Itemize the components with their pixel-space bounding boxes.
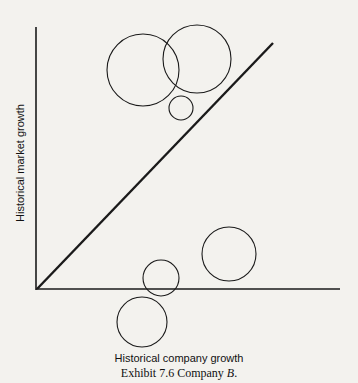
bubble-3 (169, 96, 193, 120)
figure-caption: Exhibit 7.6 Company B. (0, 366, 358, 381)
x-axis-label: Historical company growth (0, 352, 358, 364)
bubble-4 (202, 227, 256, 281)
bubble-1 (107, 34, 179, 106)
bubble-2 (163, 25, 231, 93)
bubble-6 (117, 297, 167, 347)
caption-prefix: Exhibit 7.6 Company (121, 366, 227, 380)
bubble-5 (143, 260, 179, 296)
bubble-diagram (0, 0, 358, 383)
caption-suffix: . (234, 366, 237, 380)
y-axis-label: Historical market growth (14, 104, 26, 222)
diagonal-reference-line (37, 43, 273, 289)
